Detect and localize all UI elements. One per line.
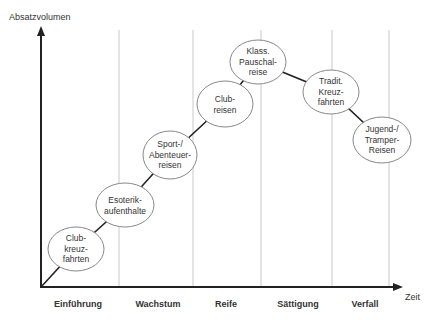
node-label-line: Jugend-/ [365,124,400,135]
node-label-line: Tradit. [318,76,344,87]
product-nodes [48,40,411,271]
node-label-line: reisen [213,104,236,115]
node-label-line: Club- [213,94,236,105]
node-label-line: kreuz- [63,244,89,255]
node-label-line: Pauschal- [239,57,277,68]
phase-label: Sättigung [277,299,319,309]
node-label-line: reisen [149,160,191,171]
x-axis-label: Zeit [405,292,420,302]
node-label-line: Reisen [365,145,400,156]
product-lifecycle-diagram [0,0,439,328]
node-label-line: Tramper- [365,135,400,146]
node-label-line: Kreuz- [318,87,344,98]
node-label-line: Sport-/ [149,139,191,150]
product-node-label: Club-reisen [213,94,236,115]
node-label-line: fahrten [63,254,89,265]
product-node-label: Jugend-/Tramper-Reisen [365,124,400,156]
node-label-line: Abenteuer- [149,150,191,161]
node-label-line: Klass. [239,46,277,57]
node-label-line: Club- [63,233,89,244]
product-node-label: Tradit.Kreuz-fahrten [318,76,344,108]
product-node-label: Klass.Pauschal-reise [239,46,277,78]
x-axis-arrow-icon [393,283,403,291]
node-label-line: Esoterik- [104,195,146,206]
phase-label: Reife [215,299,237,309]
y-axis-label: Absatzvolumen [9,12,71,22]
y-axis-arrow-icon [37,26,45,36]
node-label-line: aufenthalte [104,205,146,216]
phase-label: Verfall [351,299,378,309]
node-label-line: fahrten [318,97,344,108]
phase-label: Wachstum [135,299,180,309]
product-node-label: Sport-/Abenteuer-reisen [149,139,191,171]
node-label-line: reise [239,67,277,78]
product-node-label: Club-kreuz-fahrten [63,233,89,265]
phase-label: Einführung [54,299,102,309]
product-node-label: Esoterik-aufenthalte [104,195,146,216]
